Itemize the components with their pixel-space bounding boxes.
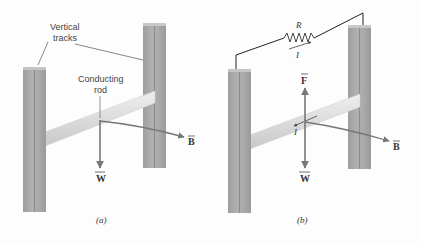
force-vector-label: F xyxy=(301,75,307,86)
left-track xyxy=(23,67,46,212)
tracks-leader-lines xyxy=(38,42,143,65)
tracks-label-line1: Vertical xyxy=(50,22,80,32)
tracks-label-line2: tracks xyxy=(53,33,78,43)
figure: Vertical tracks Conducting rod W B (a) R… xyxy=(0,0,421,245)
caption-b: (b) xyxy=(297,215,308,225)
rod-label-line1: Conducting xyxy=(78,74,124,84)
field-vector-arrow xyxy=(100,121,184,137)
physics-diagram: Vertical tracks Conducting rod W B (a) R… xyxy=(0,0,421,245)
field-vector-label: B xyxy=(188,136,195,147)
panel-b: R I I F W B (b) xyxy=(228,13,400,225)
field-vector-arrow xyxy=(305,122,389,141)
current-wire-label: I xyxy=(295,50,300,60)
rod-label-line2: rod xyxy=(94,85,107,95)
field-vector-label: B xyxy=(393,141,400,152)
resistor-label: R xyxy=(295,20,302,30)
current-direction-arrow xyxy=(289,42,311,49)
weight-vector-label: W xyxy=(300,173,310,184)
weight-vector-label: W xyxy=(96,173,106,184)
circuit-wire xyxy=(236,38,284,69)
resistor-icon xyxy=(284,33,314,42)
panel-a: Vertical tracks Conducting rod W B (a) xyxy=(23,22,195,225)
caption-a: (a) xyxy=(96,215,107,225)
left-track xyxy=(228,69,251,213)
